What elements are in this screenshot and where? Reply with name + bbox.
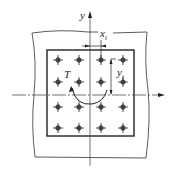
bolt-group-diagram — [0, 0, 169, 171]
y-axis-arrow-icon — [88, 11, 92, 18]
torque-arrow-icon — [69, 86, 74, 92]
x-axis-arrow-icon — [158, 93, 165, 97]
xi-label: xi — [100, 28, 107, 42]
y-axis-label: y — [80, 10, 85, 21]
yi-label: yi — [117, 67, 124, 81]
connection-square — [47, 50, 134, 136]
torque-label: T — [64, 69, 70, 80]
torque-arc — [72, 88, 107, 104]
